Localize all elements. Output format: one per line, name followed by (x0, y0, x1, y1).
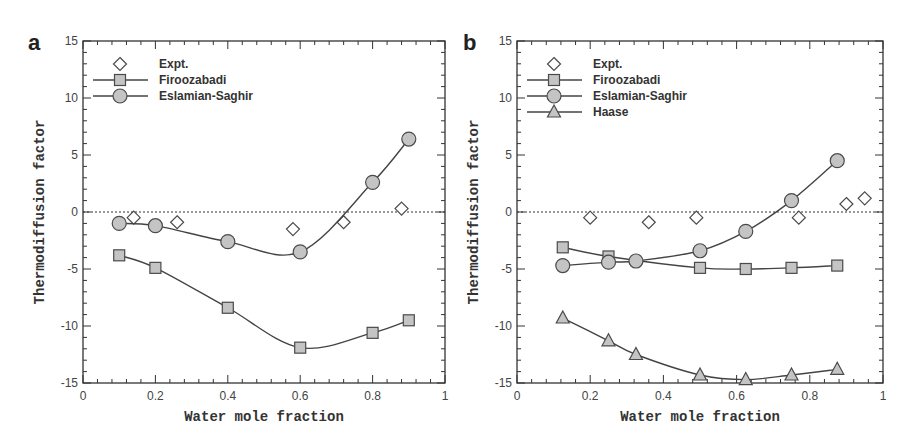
diamond-marker (286, 223, 299, 236)
series-haase (556, 311, 844, 385)
triangle-marker (629, 348, 642, 360)
panel-a: a00.20.40.60.81-15-10-5051015Water mole … (28, 30, 449, 425)
diamond-marker (395, 202, 408, 215)
series-expt (127, 202, 408, 236)
circle-marker (739, 224, 753, 238)
legend-label: Eslamian-Saghir (159, 89, 253, 103)
legend-square-icon (115, 75, 126, 86)
circle-marker (148, 219, 162, 233)
y-axis-title: Thermodiffusion factor (32, 120, 48, 305)
legend: Expt.FiroozabadiEslamian-Saghir (93, 57, 253, 103)
square-marker (295, 342, 306, 353)
y-tick-label: -15 (495, 376, 513, 390)
diamond-marker (690, 211, 703, 224)
series-line (119, 255, 409, 348)
circle-marker (366, 175, 380, 189)
x-tick-label: 0.6 (292, 389, 309, 403)
legend-label: Firoozabadi (159, 73, 226, 87)
y-tick-label: -15 (61, 376, 79, 390)
y-tick-label: 10 (65, 91, 79, 105)
legend-label: Expt. (593, 57, 622, 71)
legend-circle-icon (547, 89, 561, 103)
square-marker (695, 262, 706, 273)
square-marker (832, 260, 843, 271)
x-tick-label: 0.8 (364, 389, 381, 403)
y-tick-label: 0 (71, 205, 78, 219)
x-tick-label: 1 (880, 389, 887, 403)
x-axis-title: Water mole fraction (184, 409, 344, 425)
x-tick-label: 0.6 (728, 389, 745, 403)
circle-marker (785, 194, 799, 208)
legend-diamond-icon (548, 58, 561, 71)
panel-label: a (28, 30, 41, 55)
diamond-marker (127, 211, 140, 224)
legend-square-icon (549, 75, 560, 86)
circle-marker (293, 245, 307, 259)
axis-ticks (517, 41, 883, 383)
circle-marker (556, 259, 570, 273)
diamond-marker (337, 216, 350, 229)
circle-marker (629, 254, 643, 268)
y-axis-title: Thermodiffusion factor (466, 120, 482, 305)
circle-marker (602, 255, 616, 269)
diamond-marker (792, 211, 805, 224)
square-marker (367, 327, 378, 338)
y-tick-label: 10 (499, 91, 513, 105)
diamond-marker (642, 216, 655, 229)
series-line (119, 139, 409, 255)
circle-marker (402, 132, 416, 146)
legend-diamond-icon (114, 58, 127, 71)
square-marker (114, 250, 125, 261)
square-marker (740, 264, 751, 275)
diamond-marker (840, 198, 853, 211)
legend-triangle-icon (548, 105, 561, 117)
legend-label: Haase (593, 105, 629, 119)
x-tick-label: 0 (80, 389, 87, 403)
circle-marker (830, 154, 844, 168)
panel-label: b (463, 30, 476, 55)
x-tick-label: 0 (514, 389, 521, 403)
x-tick-label: 0.4 (219, 389, 236, 403)
x-tick-label: 0.8 (801, 389, 818, 403)
circle-marker (112, 216, 126, 230)
y-tick-label: 0 (505, 205, 512, 219)
y-tick-label: 15 (499, 34, 513, 48)
legend: Expt.FiroozabadiEslamian-SaghirHaase (527, 57, 687, 119)
square-marker (150, 262, 161, 273)
y-tick-label: -5 (501, 262, 512, 276)
triangle-marker (831, 362, 844, 374)
y-tick-label: 15 (65, 34, 79, 48)
plot-frame (517, 41, 883, 383)
y-tick-label: -10 (495, 319, 513, 333)
x-tick-label: 0.2 (147, 389, 164, 403)
figure: a00.20.40.60.81-15-10-5051015Water mole … (0, 0, 915, 444)
x-tick-label: 1 (442, 389, 449, 403)
legend-label: Expt. (159, 57, 188, 71)
diamond-marker (584, 211, 597, 224)
square-marker (786, 262, 797, 273)
triangle-marker (602, 334, 615, 346)
x-axis-title: Water mole fraction (620, 409, 780, 425)
panel-b: b00.20.40.60.81-15-10-5051015Water mole … (463, 30, 887, 425)
legend-label: Eslamian-Saghir (593, 89, 687, 103)
circle-marker (221, 235, 235, 249)
y-tick-label: 5 (71, 148, 78, 162)
square-marker (222, 302, 233, 313)
y-tick-label: 5 (505, 148, 512, 162)
series-eslamian-saghir (112, 132, 416, 259)
diamond-marker (858, 192, 871, 205)
legend-circle-icon (113, 89, 127, 103)
diamond-marker (171, 216, 184, 229)
series-expt (584, 192, 872, 229)
circle-marker (693, 244, 707, 258)
triangle-marker (739, 373, 752, 385)
legend-label: Firoozabadi (593, 73, 660, 87)
x-tick-label: 0.4 (655, 389, 672, 403)
square-marker (403, 315, 414, 326)
y-tick-label: -10 (61, 319, 79, 333)
square-marker (557, 242, 568, 253)
triangle-marker (556, 311, 569, 323)
x-tick-label: 0.2 (582, 389, 599, 403)
y-tick-label: -5 (67, 262, 78, 276)
series-firoozabadi (114, 250, 415, 353)
